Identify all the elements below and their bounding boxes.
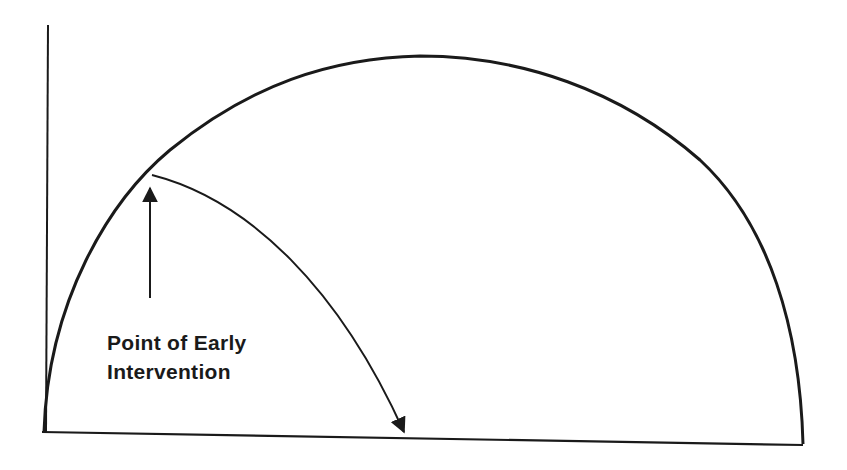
diagram-canvas (0, 0, 847, 470)
intervention-curve (152, 175, 404, 432)
annotation-line-2: Intervention (107, 357, 247, 386)
y-axis (46, 25, 48, 432)
annotation-label: Point of Early Intervention (107, 328, 247, 386)
annotation-line-1: Point of Early (107, 328, 247, 357)
x-axis (42, 432, 803, 445)
